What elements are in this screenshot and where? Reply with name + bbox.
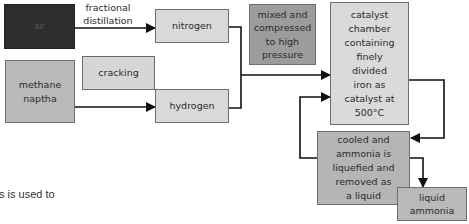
methane-naptha-node: methane naptha (5, 60, 75, 123)
catalyst-chamber-node-label: catalyst chamber containing finely divid… (344, 8, 394, 120)
body-text-fragment: s is used to (0, 188, 55, 200)
cracking-node: cracking (82, 56, 155, 90)
catalyst-chamber-node: catalyst chamber containing finely divid… (330, 2, 409, 125)
hydrogen-node-label: hydrogen (169, 99, 214, 113)
cracking-node-label: cracking (98, 66, 138, 80)
nitrogen-node-label: nitrogen (172, 19, 212, 33)
hydrogen-node: hydrogen (155, 89, 229, 123)
mixed-compressed-node-label: mixed and compressed to high pressure (254, 8, 312, 62)
air-node-label: air (34, 20, 44, 34)
mixed-compressed-node: mixed and compressed to high pressure (249, 4, 316, 65)
liquid-ammonia-node: liquid ammonia (397, 187, 467, 221)
nitrogen-node: nitrogen (155, 9, 229, 43)
air-node: air (4, 4, 75, 49)
fractional-distillation-label: fractional distillation (82, 1, 134, 27)
cooled-liquefied-node-label: cooled and ammonia is liquefied and remo… (333, 133, 395, 203)
methane-naptha-node-label: methane naptha (19, 78, 62, 106)
liquid-ammonia-node-label: liquid ammonia (410, 191, 455, 217)
